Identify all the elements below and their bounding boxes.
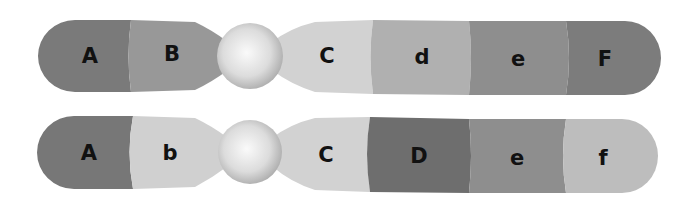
chromosome-2: A b C D e f: [37, 116, 658, 193]
gene-label: b: [162, 141, 177, 165]
gene-label: C: [319, 44, 334, 68]
chromosome-diagram: A B C d e F A b C D e f: [0, 0, 687, 206]
segment-f: [563, 119, 658, 193]
gene-label: B: [164, 42, 180, 66]
gene-label: e: [510, 146, 524, 170]
segment-F: [566, 21, 661, 95]
chromosome-1: A B C d e F: [38, 20, 661, 95]
gene-label: C: [318, 143, 333, 167]
gene-label: D: [410, 144, 427, 168]
gene-label: A: [81, 141, 98, 165]
gene-label: d: [414, 45, 429, 69]
gene-label: e: [511, 47, 525, 71]
gene-label: F: [598, 47, 612, 71]
centromere: [218, 120, 282, 184]
centromere: [217, 23, 283, 89]
segment-b: [130, 116, 229, 189]
gene-label: f: [598, 146, 608, 170]
gene-label: A: [82, 44, 99, 68]
